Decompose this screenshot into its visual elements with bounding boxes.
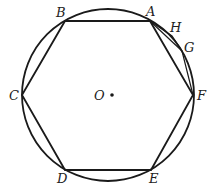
label-a: A (145, 4, 155, 19)
label-h: H (169, 20, 182, 35)
hexagon (22, 21, 193, 170)
label-d: D (56, 171, 68, 186)
label-c: C (9, 88, 19, 103)
label-e: E (148, 171, 159, 186)
label-b: B (55, 5, 66, 20)
hexagon-circle-diagram: A B C D E F G H O (0, 0, 211, 187)
center-point (110, 93, 114, 97)
circumscribed-circle (22, 9, 194, 181)
label-f: F (196, 88, 207, 103)
label-o: O (94, 88, 105, 103)
label-g: G (184, 40, 194, 55)
